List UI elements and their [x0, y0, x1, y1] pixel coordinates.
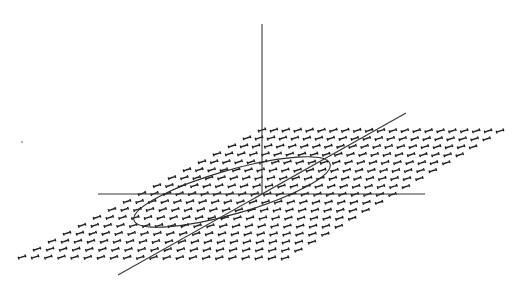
dumbbell-mark [435, 136, 443, 141]
dumbbell-mark [409, 144, 417, 149]
dumbbell-mark [389, 128, 397, 133]
dumbbell-mark [417, 168, 425, 173]
dumbbell-mark [257, 231, 265, 236]
dumbbell-mark [391, 176, 399, 181]
dumbbell-mark [335, 224, 343, 229]
dumbbell-mark [483, 136, 491, 141]
dumbbell-mark [59, 247, 67, 252]
dumbbell-mark [104, 223, 112, 228]
dumbbell-mark [300, 200, 308, 205]
dumbbell-mark [269, 240, 277, 245]
dumbbell-mark [350, 200, 358, 205]
dumbbell-mark [363, 200, 371, 205]
dumbbell-mark [194, 223, 202, 228]
dumbbell-mark [290, 184, 298, 189]
dumbbell-mark [18, 255, 26, 260]
dumbbell-mark [472, 128, 480, 133]
dumbbell-mark [196, 167, 204, 172]
dumbbell-mark [425, 128, 433, 133]
dumbbell-mark [281, 256, 289, 261]
dumbbell-mark [318, 128, 326, 133]
dumbbell-mark [423, 136, 431, 141]
dumbbell-mark [154, 231, 162, 236]
dumbbell-mark [402, 184, 410, 189]
dumbbell-mark [432, 152, 440, 157]
dumbbell-mark [203, 247, 211, 252]
specks [21, 141, 23, 143]
dumbbell-mark [202, 255, 210, 260]
dumbbell-mark [284, 224, 292, 229]
dumbbell-mark [283, 232, 291, 237]
dumbbell-mark [191, 183, 199, 188]
dumbbell-mark [306, 128, 314, 133]
dumbbell-mark [172, 207, 180, 212]
dumbbell-mark [437, 128, 445, 133]
dumbbell-mark [232, 223, 240, 228]
dumbbell-mark [245, 167, 253, 172]
dumbbell-mark [295, 248, 303, 253]
dumbbell-mark [352, 184, 360, 189]
dumbbell-mark [165, 239, 173, 244]
dumbbell-mark [322, 232, 330, 237]
dumbbell-mark [333, 160, 341, 165]
dumbbell-mark [99, 247, 107, 252]
dumbbell-mark [298, 152, 306, 157]
dumbbell-mark [381, 160, 389, 165]
dumbbell-mark [137, 255, 145, 260]
dumbbell-mark [234, 215, 242, 220]
dumbbell-mark [126, 239, 134, 244]
dumbbell-mark [113, 239, 121, 244]
dumbbell-mark [203, 183, 211, 188]
dumbbell-mark [303, 136, 311, 141]
dumbbell-mark [469, 144, 477, 149]
dumbbell-mark [228, 183, 236, 188]
dumbbell-mark [213, 151, 221, 156]
dumbbell-mark [359, 152, 367, 157]
dumbbell-mark [119, 215, 127, 220]
dumbbell-mark [345, 160, 353, 165]
dumbbell-mark [260, 208, 268, 213]
dumbbell-mark [318, 168, 326, 173]
dumbbell-mark [252, 144, 260, 149]
dumbbell-mark [112, 247, 120, 252]
dumbbell-mark [296, 232, 304, 237]
dumbbell-mark [216, 255, 224, 260]
dumbbell-mark [331, 168, 339, 173]
dumbbell-mark [421, 144, 429, 149]
dumbbell-mark [48, 239, 56, 244]
dumbbell-mark [216, 247, 224, 252]
dumbbell-mark [371, 152, 379, 157]
dumbbell-mark [404, 168, 412, 173]
dumbbell-mark [357, 160, 365, 165]
dumbbell-mark [225, 151, 233, 156]
dumbbell-mark [58, 255, 66, 260]
dumbbell-mark [304, 176, 312, 181]
dumbbell-mark [401, 128, 409, 133]
dumbbell-mark [273, 208, 281, 213]
dumbbell-mark [313, 144, 321, 149]
dumbbell-mark [282, 240, 290, 245]
dumbbell-mark [289, 144, 297, 149]
dumbbell-mark [328, 184, 336, 189]
dumbbell-mark [240, 143, 248, 148]
dumbbell-mark [255, 255, 263, 260]
dumbbell-mark [198, 159, 206, 164]
dumbbell-mark [242, 255, 250, 260]
dumbbell-mark [204, 239, 212, 244]
dumbbell-mark [190, 247, 198, 252]
dumbbell-mark [282, 248, 290, 253]
dumbbell-mark [218, 231, 226, 236]
dumbbell-mark [237, 199, 245, 204]
dumbbell-mark [322, 224, 330, 229]
dumbbell-mark [197, 207, 205, 212]
dumbbell-mark [280, 176, 288, 181]
dumbbell-mark [108, 207, 116, 212]
dumbbell-mark [366, 176, 374, 181]
dumbbell-mark [215, 183, 223, 188]
dumbbell-mark [373, 144, 381, 149]
dumbbell-mark [310, 152, 318, 157]
dumbbell-mark [110, 255, 118, 260]
dumbbell-mark [93, 215, 101, 220]
dumbbell-mark [324, 208, 332, 213]
dumbbell-mark [368, 168, 376, 173]
